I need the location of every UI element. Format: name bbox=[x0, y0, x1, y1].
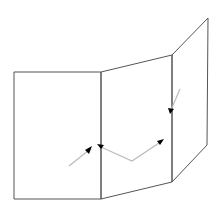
left-panel bbox=[14, 72, 101, 199]
reflected-ray bbox=[101, 141, 162, 161]
arrowheads-group bbox=[85, 108, 174, 154]
incoming-ray bbox=[69, 150, 89, 166]
right-panel bbox=[172, 18, 208, 182]
diagram-canvas bbox=[0, 0, 220, 208]
arrowhead-right-fold-icon bbox=[168, 108, 174, 114]
folded-panels-diagram bbox=[0, 0, 220, 208]
middle-panel bbox=[101, 55, 172, 199]
panels-group bbox=[14, 18, 208, 199]
rays-group bbox=[69, 89, 180, 166]
